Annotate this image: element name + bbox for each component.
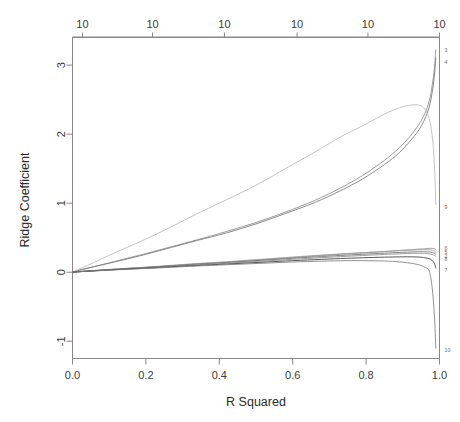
y-axis-title: Ridge Coefficient [18, 152, 32, 247]
series-label-10: 10 [445, 347, 451, 353]
y-axis-tick-label: 2 [56, 131, 68, 137]
y-axis-tick-label: 0 [56, 269, 68, 275]
series-label-8: 8 [445, 256, 448, 262]
ridge-trace-plot: 101010101010 -10123 0.00.20.40.60.81.0 3… [0, 0, 460, 422]
x-axis-tick-label: 0.4 [212, 369, 227, 381]
chart-canvas: 101010101010 -10123 0.00.20.40.60.81.0 3… [0, 0, 460, 422]
top-axis-tick-label: 10 [362, 18, 374, 30]
y-axis-tick-label: -1 [56, 336, 68, 346]
y-axis-tick-label: 1 [56, 200, 68, 206]
x-axis-tick-label: 0.6 [285, 369, 300, 381]
top-axis-tick-label: 10 [291, 18, 303, 30]
x-axis-title: R Squared [226, 395, 286, 409]
x-axis-tick-label: 0.8 [358, 369, 373, 381]
x-axis-tick-label: 1.0 [432, 369, 447, 381]
top-axis-tick-label: 10 [433, 18, 445, 30]
y-axis-tick-label: 3 [56, 62, 68, 68]
series-label-3: 3 [445, 47, 448, 53]
series-label-9: 9 [445, 204, 448, 210]
series-label-7: 7 [445, 267, 448, 273]
x-axis-tick-label: 0.0 [65, 369, 80, 381]
top-axis-tick-label: 10 [146, 18, 158, 30]
x-axis-tick-label: 0.2 [138, 369, 153, 381]
series-label-4: 4 [445, 59, 448, 65]
top-axis-tick-label: 10 [76, 18, 88, 30]
top-axis-tick-label: 10 [218, 18, 230, 30]
